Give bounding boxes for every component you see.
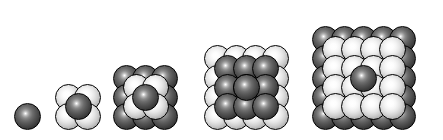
cluster-2	[55, 84, 101, 130]
sphere-center	[233, 74, 260, 101]
cluster-1	[14, 103, 41, 130]
cluster-4	[204, 45, 289, 130]
cluster-5	[312, 26, 416, 130]
cluster-3	[113, 65, 178, 130]
crystal-growth-figure	[0, 0, 443, 140]
sphere-front-layer	[65, 93, 92, 120]
sphere-center	[132, 84, 159, 111]
sphere-center	[350, 65, 377, 92]
sphere-back-layer	[14, 103, 41, 130]
